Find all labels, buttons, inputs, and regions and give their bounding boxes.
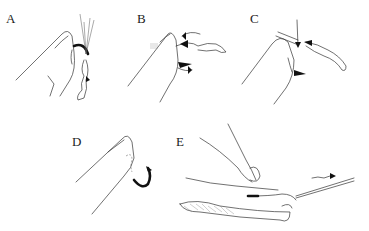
panel-label-a: A xyxy=(6,12,15,25)
panel-label-d: D xyxy=(72,135,81,148)
fishhook-removal-illustration xyxy=(0,0,369,231)
panel-a-drawing xyxy=(16,14,94,100)
panel-label-c: C xyxy=(250,12,259,25)
panel-label-e: E xyxy=(176,135,184,148)
panel-c-drawing xyxy=(242,20,346,104)
panel-label-b: B xyxy=(137,12,146,25)
panel-b-drawing xyxy=(128,32,226,102)
panel-e-drawing xyxy=(180,124,354,221)
panel-d-drawing xyxy=(76,136,152,214)
